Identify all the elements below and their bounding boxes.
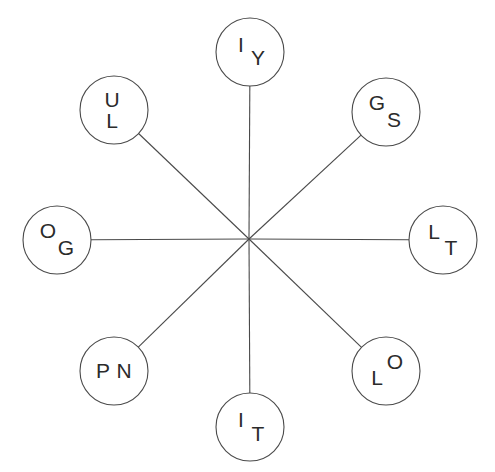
node-og-letter-1: O (40, 219, 56, 242)
node-gs-letter-1: G (369, 91, 385, 114)
node-og[interactable]: OG (23, 206, 91, 274)
node-lo[interactable]: LO (352, 337, 420, 405)
node-iy-letter-1: I (238, 33, 244, 56)
node-iy[interactable]: IY (216, 18, 284, 86)
node-it-letter-1: I (238, 408, 244, 431)
radial-spoke-diagram: IYGSLTLOITPNOGUL (0, 0, 495, 472)
diagram-canvas: IYGSLTLOITPNOGUL (0, 0, 495, 472)
node-lt-letter-2: T (445, 236, 458, 259)
node-pn-letter-1: P (96, 359, 110, 382)
node-ul-letter-2: L (106, 109, 118, 132)
node-lt-letter-1: L (428, 220, 440, 243)
node-iy-letter-2: Y (251, 46, 265, 69)
node-it[interactable]: IT (216, 393, 284, 461)
node-it-circle[interactable] (216, 393, 284, 461)
node-gs-letter-2: S (387, 108, 401, 131)
node-lo-letter-1: L (371, 366, 383, 389)
node-lo-letter-2: O (387, 350, 403, 373)
node-og-letter-2: G (58, 236, 74, 259)
node-it-letter-2: T (252, 422, 265, 445)
node-gs[interactable]: GS (352, 78, 420, 146)
node-pn-letter-2: N (116, 359, 131, 382)
node-lt-circle[interactable] (409, 206, 477, 274)
node-pn[interactable]: PN (80, 337, 148, 405)
node-lt[interactable]: LT (409, 206, 477, 274)
node-ul[interactable]: UL (80, 76, 148, 144)
node-ul-letter-1: U (104, 88, 119, 111)
node-pn-circle[interactable] (80, 337, 148, 405)
